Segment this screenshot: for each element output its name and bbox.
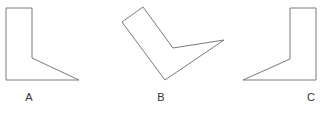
shape-a	[6, 8, 79, 80]
label-b: B	[157, 92, 164, 103]
shape-c	[243, 8, 316, 80]
label-c: C	[307, 92, 315, 103]
label-a: A	[25, 92, 32, 103]
shape-b	[122, 7, 224, 80]
